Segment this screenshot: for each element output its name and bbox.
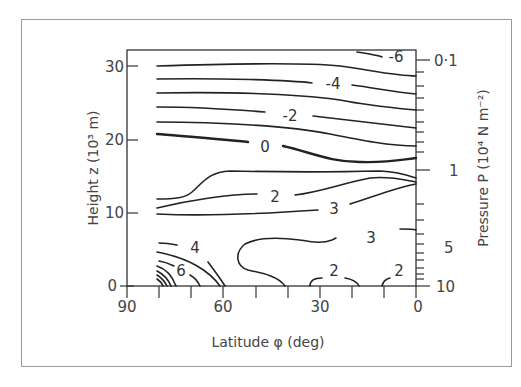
contour-label-0: 0 (260, 138, 270, 156)
contour-label-6: 6 (176, 262, 186, 280)
y2-axis-tick-labels: 0·1 1 5 10 (434, 52, 459, 296)
contour-label-minus6: -6 (389, 48, 404, 66)
contour-label-2-bottom-mid: 2 (329, 262, 339, 280)
contour-label-4: 4 (190, 239, 200, 257)
x-tick-30: 30 (310, 298, 329, 316)
contour-label-3-upper: 3 (329, 200, 339, 218)
contour-chart: 0 10 20 30 90 60 30 0 (0, 0, 521, 387)
plot-area (127, 50, 416, 286)
x-tick-0: 0 (413, 298, 423, 316)
y2-tick-10: 10 (436, 278, 455, 296)
contour-label-minus2: -2 (283, 107, 298, 125)
x-axis-ticks (127, 286, 416, 298)
y-tick-20: 20 (105, 131, 124, 149)
x-axis-tick-labels: 90 60 30 0 (117, 298, 422, 316)
y2-tick-5: 5 (444, 239, 454, 257)
x-axis-title: Latitude φ (deg) (211, 334, 324, 350)
y2-tick-0-1: 0·1 (434, 52, 458, 70)
y-tick-0: 0 (107, 277, 117, 295)
y-axis-tick-labels: 0 10 20 30 (105, 58, 124, 295)
x-tick-90: 90 (117, 298, 136, 316)
y2-tick-1: 1 (449, 162, 459, 180)
y-axis-title: Height z (10³ m) (85, 111, 101, 226)
y-axis-ticks (120, 66, 138, 286)
contour-label-minus4: -4 (326, 75, 341, 93)
contour-label-2-upper: 2 (270, 188, 280, 206)
contour-label-3-lower: 3 (366, 229, 376, 247)
y2-axis-ticks (416, 60, 430, 286)
x-tick-60: 60 (213, 298, 232, 316)
y2-axis-title: Pressure P (10⁴ N m⁻²) (475, 89, 491, 247)
contour-label-2-bottom-right: 2 (394, 262, 404, 280)
contour-labels: -6 -4 -2 0 2 3 3 4 6 2 2 (176, 48, 404, 280)
y-tick-30: 30 (105, 58, 124, 76)
y-tick-10: 10 (105, 204, 124, 222)
